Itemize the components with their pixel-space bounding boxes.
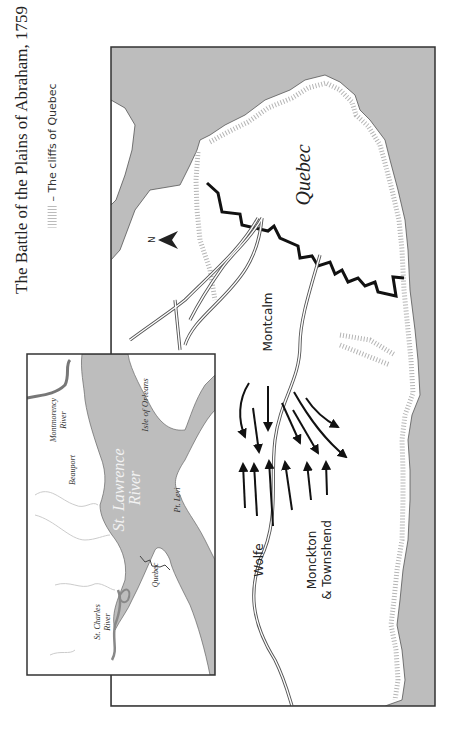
point-levi-label: Pt. Levi xyxy=(173,488,182,514)
svg-text:N: N xyxy=(147,236,157,243)
monckton-label: Monckton xyxy=(305,531,319,590)
beauport-label: Beauport xyxy=(68,454,77,485)
st-charles-river-label: River xyxy=(103,612,112,631)
st-charles-label: St. Charles xyxy=(93,604,102,640)
st-lawrence-river-label: River xyxy=(126,470,143,506)
montmorency-label: Montmorency xyxy=(49,397,58,443)
inset-map: Isle of Orleans Montmorency River Beaupo… xyxy=(27,354,215,675)
st-lawrence-label: St. Lawrence xyxy=(110,449,127,532)
isle-of-orleans-label: Isle of Orleans xyxy=(140,378,150,433)
montcalm-label: Montcalm xyxy=(261,293,275,352)
battle-map: N Quebec Montcalm Wolfe Monckton & Towns… xyxy=(0,0,462,746)
wolfe-label: Wolfe xyxy=(252,543,266,576)
inset-quebec-label: Quebec xyxy=(151,562,160,587)
quebec-label: Quebec xyxy=(292,144,314,205)
montmorency-river-label: River xyxy=(59,410,68,429)
townshend-label: & Townshend xyxy=(320,520,334,600)
